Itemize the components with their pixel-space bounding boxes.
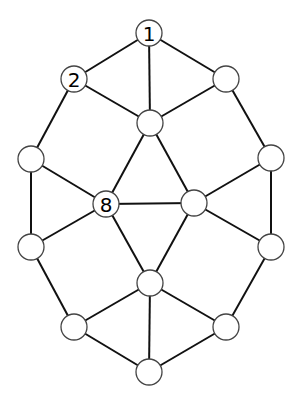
edge-rl-br [226, 247, 271, 327]
node-circle [137, 270, 163, 296]
edge-ti-n8 [106, 123, 150, 204]
node-circle [258, 145, 284, 171]
node-b [136, 359, 162, 385]
node-n1: 1 [136, 20, 162, 46]
node-lu [18, 146, 44, 172]
node-ru [258, 145, 284, 171]
node-circle [136, 359, 162, 385]
edge-ti-ri [150, 123, 194, 203]
node-n2: 2 [61, 66, 87, 92]
node-bl [61, 314, 87, 340]
node-rl [258, 234, 284, 260]
node-li [137, 270, 163, 296]
node-circle [213, 66, 239, 92]
node-ti [137, 110, 163, 136]
graph-diagram: 128 [0, 0, 299, 406]
node-label: 2 [68, 68, 81, 92]
node-circle [18, 234, 44, 260]
node-circle [61, 314, 87, 340]
node-circle [181, 190, 207, 216]
node-br [213, 314, 239, 340]
node-ll [18, 234, 44, 260]
node-circle [213, 314, 239, 340]
edge-ri-li [150, 203, 194, 283]
node-ri [181, 190, 207, 216]
node-circle [258, 234, 284, 260]
node-circle [137, 110, 163, 136]
node-circle [18, 146, 44, 172]
node-tr [213, 66, 239, 92]
node-n8: 8 [93, 191, 119, 217]
node-label: 8 [100, 193, 113, 217]
node-label: 1 [143, 22, 156, 46]
